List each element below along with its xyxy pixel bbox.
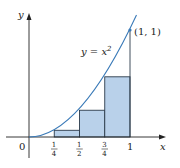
curve-label: y = x2	[80, 45, 112, 57]
svg-text:2: 2	[77, 150, 81, 158]
rectangle-4	[105, 77, 130, 137]
y-axis-label: y	[17, 9, 24, 20]
x-axis-label: x	[160, 141, 166, 152]
tick-3-4: 3 4	[102, 141, 109, 158]
x-axis-arrow-icon	[159, 135, 166, 140]
svg-text:1: 1	[77, 141, 81, 149]
rectangle-2	[54, 130, 79, 137]
svg-text:3: 3	[102, 141, 106, 149]
y-axis-arrow-icon	[27, 13, 32, 20]
svg-text:1: 1	[52, 141, 56, 149]
tick-1-4: 1 4	[51, 141, 58, 158]
rectangle-3	[80, 110, 105, 137]
point-1-1	[128, 28, 131, 31]
svg-text:4: 4	[52, 150, 57, 158]
svg-text:4: 4	[102, 150, 107, 158]
origin-label: 0	[19, 141, 25, 152]
riemann-rectangles	[54, 77, 130, 137]
tick-1-2: 1 2	[76, 141, 83, 158]
point-label: (1, 1)	[134, 26, 161, 37]
riemann-sum-diagram: y x 0 (1, 1) y = x2 1 4 1 2 3 4 1	[0, 0, 180, 168]
tick-1: 1	[127, 141, 133, 152]
